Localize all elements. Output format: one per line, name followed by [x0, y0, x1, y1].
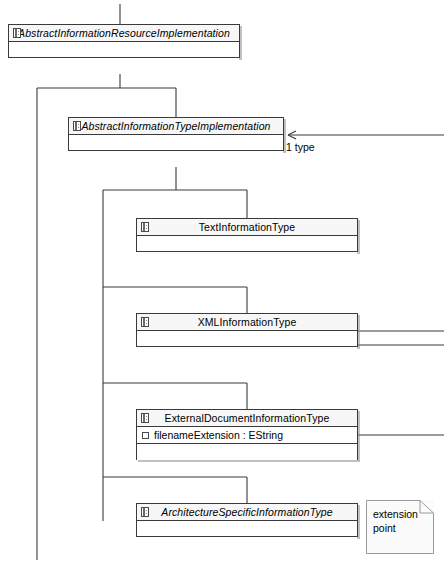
uml-class-abstract-information-resource-implementation[interactable]: AbstractInformationResourceImplementatio… — [8, 24, 240, 58]
uml-class-text-information-type[interactable]: TextInformationType — [136, 218, 358, 252]
uml-class-external-document-information-type[interactable]: ExternalDocumentInformationType filename… — [136, 409, 358, 460]
class-name-label: TextInformationType — [199, 221, 295, 233]
operations-compartment — [137, 347, 357, 363]
attribute-row-filename-extension[interactable]: filenameExtension : EString — [137, 427, 357, 444]
operations-compartment — [137, 537, 357, 553]
uml-class-xml-information-type[interactable]: XMLInformationType — [136, 313, 358, 347]
eclass-icon — [73, 121, 81, 131]
class-name-label: AbstractInformationTypeImplementation — [81, 120, 270, 132]
class-name-label: ExternalDocumentInformationType — [165, 412, 330, 424]
class-name-label: XMLInformationType — [198, 316, 297, 328]
uml-diagram-canvas: AbstractInformationResourceImplementatio… — [0, 0, 444, 564]
attribute-label: filenameExtension : EString — [154, 429, 283, 441]
association-end-label-type: 1 type — [286, 141, 315, 153]
attributes-compartment — [137, 521, 357, 537]
class-name-label: ArchitectureSpecificInformationType — [161, 506, 332, 518]
diagram-connectors — [0, 0, 444, 564]
class-name-row: XMLInformationType — [137, 314, 357, 331]
class-name-row: ExternalDocumentInformationType — [137, 410, 357, 427]
note-text: extension point — [373, 507, 428, 535]
eclass-icon — [141, 507, 149, 517]
class-name-row: AbstractInformationResourceImplementatio… — [9, 25, 239, 42]
operations-compartment — [69, 151, 283, 167]
eclass-icon — [141, 413, 149, 423]
eattribute-icon — [142, 432, 149, 439]
note-extension-point[interactable]: extension point — [366, 500, 434, 554]
operations-compartment — [137, 252, 357, 268]
class-name-label: AbstractInformationResourceImplementatio… — [18, 27, 230, 39]
class-name-row: ArchitectureSpecificInformationType — [137, 504, 357, 521]
uml-class-architecture-specific-information-type[interactable]: ArchitectureSpecificInformationType — [136, 503, 358, 537]
class-name-row: AbstractInformationTypeImplementation — [69, 118, 283, 135]
association-arrowhead-type — [288, 131, 296, 139]
attributes-compartment — [137, 236, 357, 252]
operations-compartment — [9, 58, 239, 74]
uml-class-abstract-information-type-implementation[interactable]: AbstractInformationTypeImplementation — [68, 117, 284, 151]
eclass-icon — [141, 222, 149, 232]
attributes-compartment — [69, 135, 283, 151]
attributes-compartment — [137, 331, 357, 347]
eclass-icon — [141, 317, 149, 327]
eclass-icon — [13, 28, 21, 38]
attributes-compartment — [9, 42, 239, 58]
operations-compartment — [137, 444, 357, 460]
class-name-row: TextInformationType — [137, 219, 357, 236]
